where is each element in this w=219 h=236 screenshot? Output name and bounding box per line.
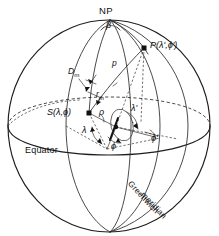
point-marker-p [142, 46, 147, 51]
equatorial-dashed-to-limb [116, 127, 178, 139]
label-lambda: λ [82, 126, 86, 135]
label-point-p: P(λ',ϕ') [150, 41, 177, 50]
point-marker-center [114, 125, 118, 129]
label-small-rho: ρ [99, 108, 104, 117]
label-angle-beta: β [106, 21, 111, 30]
point-marker-s [87, 111, 92, 116]
label-radius-rm: rm [96, 90, 104, 101]
meridian-through-p [110, 20, 131, 232]
sphere-diagram-figure: NP β P(λ',ϕ') p Dm rm S(λ,ϕ) ρ λ' λ ϕ ϕ'… [0, 0, 219, 236]
equatorial-radius-right [116, 127, 155, 137]
dm-arrowhead-2 [85, 87, 90, 92]
angle-beta-tick-b [117, 27, 120, 30]
label-arc-p: p [112, 59, 117, 68]
label-dm-sub: m [74, 71, 79, 78]
angle-beta-tick-a [101, 27, 104, 30]
label-equator: Equator [25, 146, 58, 155]
equator-back-arc [8, 97, 210, 126]
label-point-s: S(λ,ϕ) [47, 108, 71, 117]
label-lambda-prime: λ' [131, 104, 137, 113]
label-rm-sub: m [99, 94, 104, 101]
label-greenwich-line2: meridian [139, 191, 168, 221]
label-distance-dm: Dm [68, 67, 79, 78]
p-drop-to-equatorial-plane [141, 48, 144, 122]
equatorial-foot-to-left-limb [66, 126, 107, 149]
label-greenwich-meridian: Greenwich meridian [132, 168, 202, 228]
label-north-pole: NP [99, 6, 113, 16]
meridian-through-s [66, 20, 110, 232]
lambda-arrowhead [97, 138, 102, 144]
dm-leader [79, 79, 86, 88]
label-phi-prime: ϕ' [151, 134, 158, 143]
lambda-arrowhead-2 [90, 127, 95, 132]
p-arc-tick [113, 83, 117, 86]
label-phi: ϕ [111, 142, 116, 151]
